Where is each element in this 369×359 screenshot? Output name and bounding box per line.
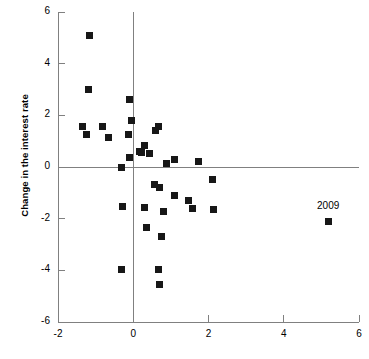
zero-reference-lines: [58, 12, 359, 322]
x-tick-label: 2: [189, 328, 229, 339]
data-point: [138, 149, 145, 156]
data-point: [99, 123, 106, 130]
data-point: [171, 192, 178, 199]
y-tick-label: -4: [16, 263, 50, 274]
data-point: [163, 160, 170, 167]
x-tick-label: 6: [339, 328, 369, 339]
data-point: [105, 134, 112, 141]
data-point: [126, 96, 133, 103]
x-tick-label: 0: [113, 328, 153, 339]
data-point: [189, 205, 196, 212]
data-point: [119, 203, 126, 210]
y-tick-label: 4: [16, 57, 50, 68]
data-point: [210, 206, 217, 213]
data-point: [125, 131, 132, 138]
data-point: [209, 176, 216, 183]
data-point: [146, 150, 153, 157]
data-point: [160, 208, 167, 215]
data-point: [155, 266, 162, 273]
data-point: [185, 197, 192, 204]
data-point: [141, 204, 148, 211]
data-point: [156, 184, 163, 191]
y-tick-label: 2: [16, 108, 50, 119]
point-annotation: 2009: [298, 200, 358, 211]
data-point: [158, 233, 165, 240]
y-tick-label: -6: [16, 315, 50, 326]
data-point: [143, 224, 150, 231]
y-tick-label: 6: [16, 5, 50, 16]
x-tick-label: 4: [264, 328, 304, 339]
data-point: [118, 164, 125, 171]
data-point: [171, 156, 178, 163]
x-tick-label: -2: [38, 328, 78, 339]
data-point: [85, 86, 92, 93]
scatter-chart-figure: Change in the interest rate -6-4-20246-2…: [0, 0, 369, 359]
data-point: [83, 131, 90, 138]
data-point: [128, 117, 135, 124]
data-point: [126, 154, 133, 161]
data-point: [325, 218, 332, 225]
data-point: [152, 127, 159, 134]
y-tick-label: -2: [16, 212, 50, 223]
plot-area: [0, 0, 369, 359]
data-point: [156, 281, 163, 288]
data-point: [195, 158, 202, 165]
y-tick-label: 0: [16, 160, 50, 171]
data-point: [86, 32, 93, 39]
data-point: [79, 123, 86, 130]
data-point: [118, 266, 125, 273]
